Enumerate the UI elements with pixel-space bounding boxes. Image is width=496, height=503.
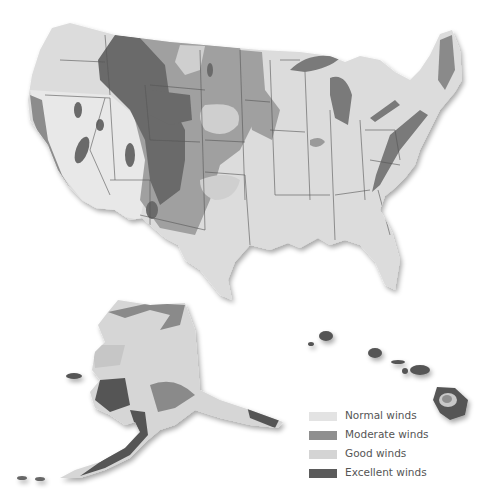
hi-island-molokai [391,360,405,364]
ak-island [66,373,82,379]
legend-swatch-moderate [309,431,337,440]
legend-label: Good winds [345,447,406,459]
hi-moderate-zone [442,395,452,403]
legend-swatch-normal [309,412,337,421]
zone-excellent-dot [146,201,158,219]
ak-island [17,476,27,480]
legend-item-normal: Normal winds [309,410,489,424]
ak-zone-good-west [92,345,125,368]
legend-swatch-good [309,450,337,459]
zone-excellent-dot [207,63,213,77]
alaska [17,300,283,481]
hi-island-kauai [319,331,333,341]
hi-island-oahu [368,348,382,358]
legend-label: Normal winds [345,409,417,421]
ak-island [35,477,45,481]
hawaii [308,331,468,420]
legend-item-excellent: Excellent winds [309,467,489,481]
hi-island-lanai [402,368,408,374]
legend-label: Excellent winds [345,466,427,478]
legend-item-good: Good winds [309,448,489,462]
legend-swatch-excellent [309,469,337,478]
contiguous-us [28,23,462,300]
zone-excellent-dot [74,102,82,118]
zone-excellent-dot [125,143,135,167]
hi-island-maui [410,365,430,375]
legend-item-moderate: Moderate winds [309,429,489,443]
legend-label: Moderate winds [345,428,429,440]
hi-island-niihau [308,342,314,346]
